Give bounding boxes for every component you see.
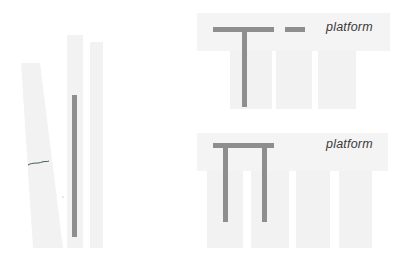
t-stem	[242, 27, 247, 107]
right-strip	[90, 42, 103, 248]
pi-right-leg	[262, 143, 267, 222]
dash	[285, 27, 305, 32]
top-column-3	[318, 51, 356, 109]
top-column-1	[230, 51, 272, 109]
bottom-column-4	[339, 171, 372, 248]
top-column-2	[276, 51, 312, 109]
bottom-column-2	[251, 171, 289, 248]
vertical-rod	[72, 95, 77, 237]
pi-left-leg	[223, 143, 228, 222]
platform-label-top: platform	[326, 20, 373, 34]
bottom-column-3	[296, 171, 330, 248]
platform-label-bottom: platform	[326, 137, 373, 151]
